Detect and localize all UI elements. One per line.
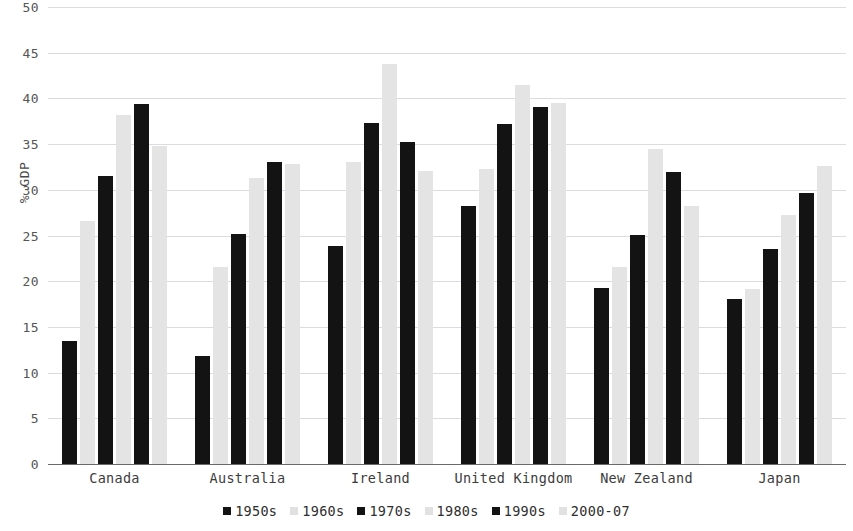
- bar[interactable]: [727, 299, 742, 464]
- bar[interactable]: [364, 123, 379, 464]
- y-axis-tick-label: 5: [31, 411, 39, 426]
- bar[interactable]: [285, 164, 300, 464]
- bar[interactable]: [152, 146, 167, 464]
- bar-groups: [48, 8, 846, 464]
- bar[interactable]: [763, 249, 778, 464]
- legend-item[interactable]: 1950s: [223, 503, 277, 519]
- bar[interactable]: [195, 356, 210, 464]
- bar-group: [48, 8, 181, 464]
- legend-label: 1960s: [302, 503, 344, 519]
- bar[interactable]: [267, 162, 282, 464]
- legend-item[interactable]: 2000-07: [559, 503, 630, 519]
- chart-legend: 1950s1960s1970s1980s1990s2000-07: [0, 503, 853, 519]
- bar[interactable]: [461, 206, 476, 464]
- bar[interactable]: [116, 115, 131, 464]
- x-axis-labels: CanadaAustraliaIrelandUnited KingdomNew …: [48, 470, 846, 486]
- bar-group: [447, 8, 580, 464]
- legend-label: 1970s: [369, 503, 411, 519]
- bar[interactable]: [630, 235, 645, 464]
- legend-item[interactable]: 1990s: [492, 503, 546, 519]
- bar[interactable]: [745, 289, 760, 464]
- bar[interactable]: [80, 221, 95, 464]
- bar[interactable]: [533, 107, 548, 464]
- x-axis-category-label: Ireland: [314, 470, 447, 486]
- legend-item[interactable]: 1960s: [290, 503, 344, 519]
- bar[interactable]: [328, 246, 343, 464]
- bar[interactable]: [594, 288, 609, 464]
- legend-label: 1980s: [437, 503, 479, 519]
- legend-label: 1990s: [504, 503, 546, 519]
- bar[interactable]: [684, 206, 699, 464]
- y-axis-tick-label: 35: [23, 137, 39, 152]
- bar[interactable]: [418, 171, 433, 464]
- x-axis-category-label: Canada: [48, 470, 181, 486]
- legend-swatch-icon: [357, 507, 365, 515]
- bar-group: [580, 8, 713, 464]
- y-axis-tick-label: 10: [23, 365, 39, 380]
- y-axis-tick-label: 25: [23, 228, 39, 243]
- bar[interactable]: [249, 178, 264, 464]
- bar[interactable]: [497, 124, 512, 464]
- bar-group: [314, 8, 447, 464]
- x-axis-category-label: Australia: [181, 470, 314, 486]
- bar[interactable]: [648, 149, 663, 464]
- plot-area: 05101520253035404550: [48, 8, 846, 465]
- bar[interactable]: [551, 103, 566, 464]
- bar[interactable]: [799, 193, 814, 464]
- legend-item[interactable]: 1970s: [357, 503, 411, 519]
- bar[interactable]: [98, 176, 113, 464]
- y-axis-tick-label: 40: [23, 91, 39, 106]
- y-axis-tick-label: 45: [23, 45, 39, 60]
- bar[interactable]: [515, 85, 530, 464]
- bar[interactable]: [346, 162, 361, 464]
- bar[interactable]: [62, 341, 77, 464]
- legend-item[interactable]: 1980s: [425, 503, 479, 519]
- legend-label: 2000-07: [571, 503, 630, 519]
- legend-swatch-icon: [290, 507, 298, 515]
- bar[interactable]: [400, 142, 415, 464]
- x-axis-category-label: Japan: [713, 470, 846, 486]
- y-axis-tick-label: 0: [31, 457, 39, 472]
- x-axis-category-label: United Kingdom: [447, 470, 580, 486]
- bar[interactable]: [382, 64, 397, 464]
- bar[interactable]: [213, 267, 228, 464]
- x-axis-category-label: New Zealand: [580, 470, 713, 486]
- bar[interactable]: [781, 215, 796, 464]
- y-axis-tick-label: 50: [23, 0, 39, 15]
- x-axis-line: [48, 464, 846, 465]
- bar-group: [181, 8, 314, 464]
- legend-label: 1950s: [235, 503, 277, 519]
- chart-page: % GDP 05101520253035404550 CanadaAustral…: [0, 0, 853, 531]
- bar[interactable]: [231, 234, 246, 464]
- legend-swatch-icon: [492, 507, 500, 515]
- bar[interactable]: [612, 267, 627, 464]
- bar[interactable]: [666, 172, 681, 464]
- legend-swatch-icon: [223, 507, 231, 515]
- y-axis-tick-label: 20: [23, 274, 39, 289]
- bar[interactable]: [479, 169, 494, 464]
- legend-swatch-icon: [425, 507, 433, 515]
- bar[interactable]: [817, 166, 832, 464]
- y-axis-tick-label: 30: [23, 182, 39, 197]
- y-axis-tick-label: 15: [23, 319, 39, 334]
- bar-group: [713, 8, 846, 464]
- bar[interactable]: [134, 104, 149, 464]
- legend-swatch-icon: [559, 507, 567, 515]
